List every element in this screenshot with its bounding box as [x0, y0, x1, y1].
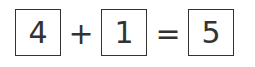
operand2: 1	[114, 18, 133, 48]
plus-operator: +	[66, 10, 96, 57]
equals-sign: =	[153, 10, 183, 57]
operand2-box: 1	[101, 9, 147, 56]
operand1-box: 4	[15, 9, 61, 56]
result: 5	[201, 18, 220, 48]
operand1: 4	[28, 18, 47, 48]
result-box: 5	[188, 9, 234, 56]
